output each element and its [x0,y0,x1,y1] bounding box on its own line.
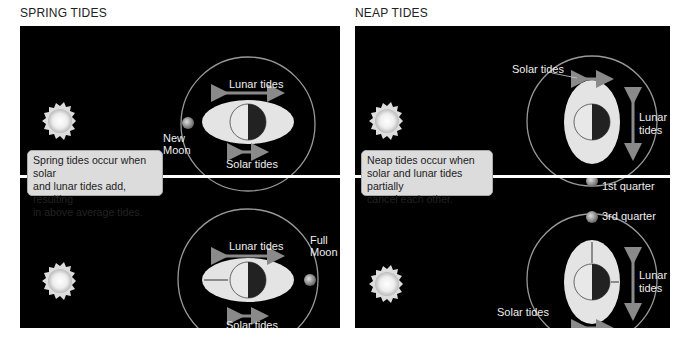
solar-tides-label: Solar tides [226,158,278,170]
svg-text:3rd quarter: 3rd quarter [602,210,656,222]
spring-tides-title: SPRING TIDES [20,6,107,20]
full-moon-icon [304,274,316,286]
neap-tides-note: Neap tides occur when solar and lunar ti… [361,150,493,196]
svg-text:tides: tides [639,282,663,294]
sun-icon [369,102,403,140]
earth-orbit-bottom [178,209,318,328]
new-moon-icon [182,117,194,129]
earth-orbit-top [527,56,657,187]
svg-text:1st quarter: 1st quarter [602,180,655,192]
svg-text:Lunar tides: Lunar tides [229,240,284,252]
new-moon-label: New [163,132,185,144]
sun-icon [42,102,76,140]
svg-text:Solar tides: Solar tides [512,63,564,75]
svg-text:Lunar: Lunar [639,111,667,123]
spring-tides-note: Spring tides occur when solar and lunar … [27,150,163,196]
svg-text:Full: Full [310,234,328,246]
svg-text:Moon: Moon [163,144,191,156]
neap-tides-title: NEAP TIDES [355,6,428,20]
svg-text:tides: tides [639,124,663,136]
svg-text:Moon: Moon [310,246,338,258]
svg-text:Lunar: Lunar [639,269,667,281]
sun-icon [369,265,403,303]
svg-text:Solar tides: Solar tides [497,306,549,318]
third-quarter-moon-icon [586,211,598,223]
lunar-tides-label: Lunar tides [229,78,284,90]
sun-icon [42,262,76,300]
svg-text:Solar tides: Solar tides [226,319,278,328]
